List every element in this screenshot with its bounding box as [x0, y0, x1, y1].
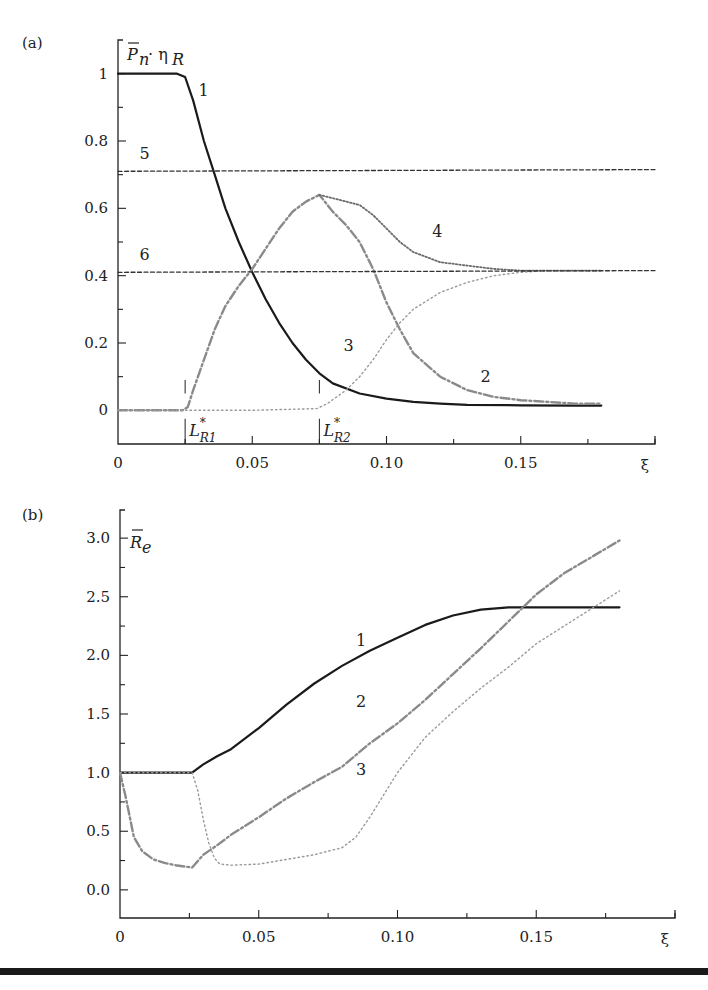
series-b: 123: [120, 541, 620, 868]
y-axis-label-main: P: [126, 45, 138, 64]
y-axis-label-a: P n · η R: [126, 43, 184, 69]
y-tick-label: 2.0: [86, 646, 110, 664]
series-a: 123456: [118, 74, 655, 411]
x-tick-label: 0: [115, 928, 125, 946]
y-axis-label-sub2: R: [171, 50, 184, 69]
series-6-line: [118, 271, 655, 273]
series-2-line: [120, 541, 620, 868]
x-tick-label: 0.15: [504, 454, 537, 472]
figure: (a) P n · η R 00.20.40.60.8100.050.100.1…: [0, 0, 708, 990]
y-tick-label: 0.8: [84, 132, 108, 150]
series-3-line: [120, 591, 620, 865]
series-3-label: 3: [356, 760, 366, 779]
panel-label-a: (a): [22, 34, 43, 52]
series-1-label: 1: [199, 81, 209, 100]
series-3-label: 3: [344, 336, 354, 355]
series-2-label: 2: [356, 692, 366, 711]
x-tick-label: 0.05: [242, 928, 275, 946]
y-tick-label: 0: [98, 401, 108, 419]
series-1-label: 1: [356, 631, 366, 650]
y-tick-label: 1: [98, 65, 108, 83]
axes-a: 00.20.40.60.8100.050.100.15ξL*R1L*R2: [84, 40, 655, 474]
series-1-line: [120, 607, 620, 772]
y-axis-label-main: R: [129, 533, 142, 552]
y-tick-label: 0.2: [84, 334, 108, 352]
panel-a: (a) P n · η R 00.20.40.60.8100.050.100.1…: [22, 34, 655, 474]
marker-label: L*R2: [322, 416, 350, 445]
axis-frame: [120, 510, 675, 918]
series-3-line: [118, 271, 601, 411]
y-tick-label: 0.6: [84, 199, 108, 217]
y-tick-label: 0.5: [86, 822, 110, 840]
x-axis-label: ξ: [661, 930, 669, 948]
y-axis-label-sub: e: [142, 538, 151, 557]
panel-label-b: (b): [22, 506, 43, 524]
axes-b: 0.00.51.01.52.02.53.000.050.100.15ξ: [86, 510, 675, 948]
panel-b: (b) R e 0.00.51.01.52.02.53.000.050.100.…: [22, 506, 675, 948]
y-tick-label: 2.5: [86, 588, 110, 606]
x-axis-label: ξ: [641, 456, 649, 474]
y-axis-label-mid: · η: [148, 45, 168, 64]
y-tick-label: 1.0: [86, 764, 110, 782]
y-tick-label: 0.0: [86, 881, 110, 899]
axis-frame: [118, 40, 655, 444]
series-4-line: [319, 195, 601, 271]
x-tick-label: 0.10: [381, 928, 414, 946]
series-6-label: 6: [139, 245, 149, 264]
y-tick-label: 1.5: [86, 705, 110, 723]
x-tick-label: 0.05: [236, 454, 269, 472]
y-tick-label: 3.0: [86, 529, 110, 547]
y-axis-label-b: R e: [129, 530, 151, 557]
series-5-label: 5: [139, 144, 149, 163]
bottom-rule: [0, 968, 708, 975]
y-tick-label: 0.4: [84, 267, 108, 285]
marker-label: L*R1: [188, 416, 216, 445]
series-1-line: [118, 74, 601, 406]
x-tick-label: 0.15: [520, 928, 553, 946]
x-tick-label: 0: [113, 454, 123, 472]
series-5-line: [118, 170, 655, 172]
series-2-line: [118, 195, 601, 410]
series-2-label: 2: [480, 367, 490, 386]
x-tick-label: 0.10: [370, 454, 403, 472]
series-4-label: 4: [432, 222, 442, 241]
